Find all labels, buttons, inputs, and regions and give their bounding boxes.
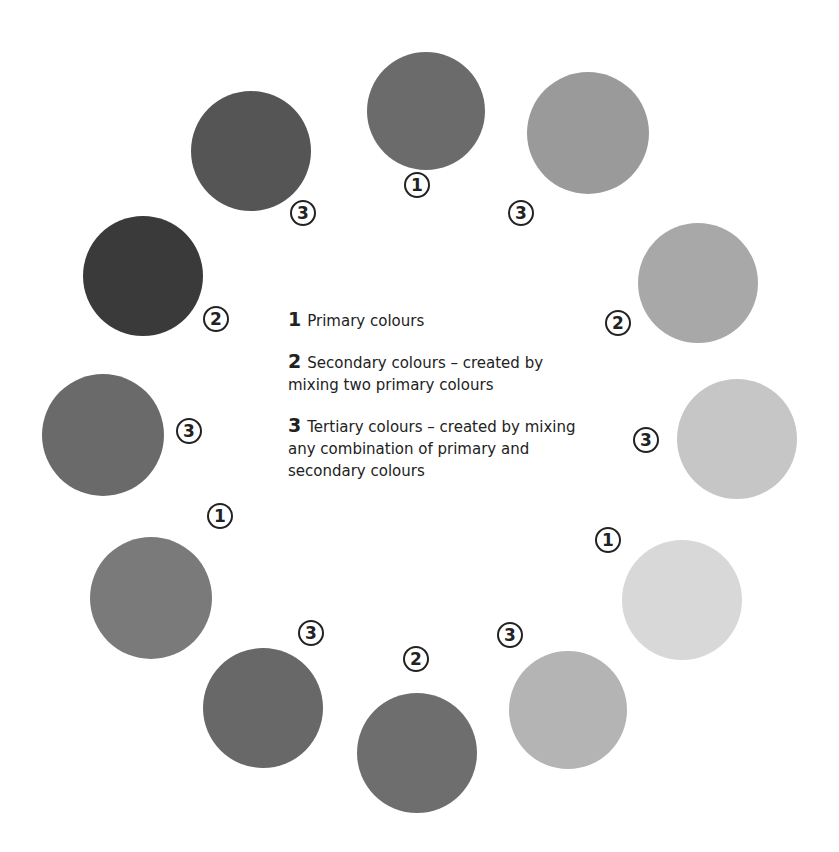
- swatch-secondary: [357, 693, 477, 813]
- swatch-tertiary: [509, 651, 627, 769]
- legend: 1Primary colours 2Secondary colours – cr…: [288, 308, 578, 500]
- swatch-tertiary: [191, 91, 311, 211]
- swatch-tertiary: [42, 374, 164, 496]
- badge-3: 3: [176, 418, 202, 444]
- badge-1: 1: [404, 172, 430, 198]
- badge-3: 3: [298, 620, 324, 646]
- badge-2: 2: [203, 306, 229, 332]
- swatch-secondary: [638, 223, 758, 343]
- badge-1: 1: [207, 503, 233, 529]
- badge-2: 2: [605, 310, 631, 336]
- badge-3: 3: [497, 622, 523, 648]
- badge-3: 3: [290, 200, 316, 226]
- legend-item-secondary: 2Secondary colours – created by mixing t…: [288, 350, 578, 396]
- swatch-primary: [90, 537, 212, 659]
- swatch-secondary: [83, 216, 203, 336]
- badge-2: 2: [403, 646, 429, 672]
- swatch-primary: [622, 540, 742, 660]
- swatch-tertiary: [677, 379, 797, 499]
- badge-3: 3: [633, 427, 659, 453]
- swatch-tertiary: [203, 648, 323, 768]
- legend-item-primary: 1Primary colours: [288, 308, 578, 332]
- badge-1: 1: [595, 527, 621, 553]
- badge-3: 3: [508, 200, 534, 226]
- swatch-primary-top: [367, 52, 485, 170]
- swatch-tertiary: [527, 72, 649, 194]
- legend-item-tertiary: 3Tertiary colours – created by mixing an…: [288, 414, 578, 482]
